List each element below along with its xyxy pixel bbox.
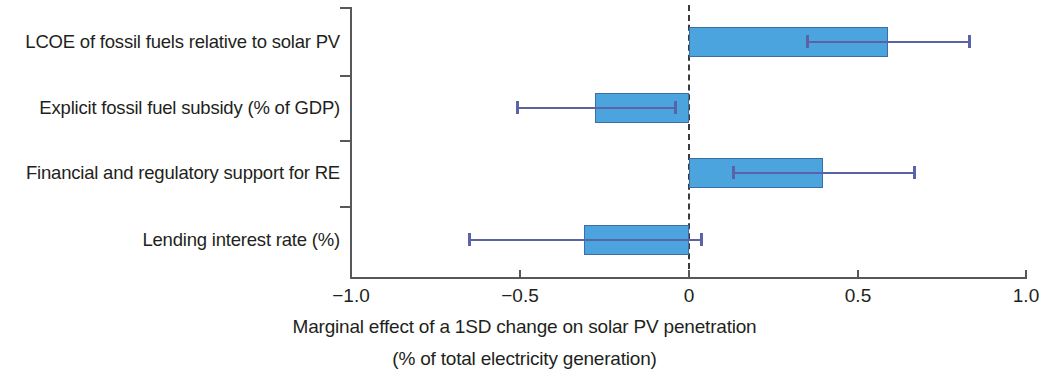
x-tick-label-0-5: 0.5 bbox=[845, 285, 871, 307]
y-axis-tick-3 bbox=[340, 206, 351, 208]
error-bar-cap-high-lending bbox=[700, 233, 703, 246]
x-tick-label-neg0-5: −0.5 bbox=[501, 285, 539, 307]
category-label-subsidy: Explicit fossil fuel subsidy (% of GDP) bbox=[0, 99, 340, 118]
error-bar-cap-low-subsidy bbox=[516, 101, 519, 114]
category-label-lcoe: LCOE of fossil fuels relative to solar P… bbox=[0, 33, 340, 52]
error-bar-cap-low-support bbox=[732, 166, 735, 179]
x-axis-tick-neg1 bbox=[350, 270, 352, 279]
error-bar-cap-high-lcoe bbox=[968, 35, 971, 48]
error-bar-line-subsidy bbox=[517, 107, 676, 110]
error-bar-cap-low-lending bbox=[468, 233, 471, 246]
y-axis-line bbox=[350, 7, 352, 278]
x-axis-title-line-1: Marginal effect of a 1SD change on solar… bbox=[0, 316, 1049, 338]
error-bar-line-lcoe bbox=[807, 41, 970, 44]
x-axis-tick-0 bbox=[688, 270, 690, 279]
horizontal-bar-chart-figure: LCOE of fossil fuels relative to solar P… bbox=[0, 0, 1049, 380]
category-label-support: Financial and regulatory support for RE bbox=[0, 164, 340, 183]
x-axis-tick-0-5 bbox=[857, 270, 859, 279]
error-bar-cap-low-lcoe bbox=[806, 35, 809, 48]
y-axis-tick-2 bbox=[340, 140, 351, 142]
x-tick-label-0: 0 bbox=[684, 285, 695, 307]
x-axis-tick-1 bbox=[1025, 270, 1027, 279]
y-axis-tick-1 bbox=[340, 75, 351, 77]
y-axis-tick-top bbox=[340, 7, 351, 9]
error-bar-cap-high-subsidy bbox=[674, 101, 677, 114]
x-tick-label-neg1: −1.0 bbox=[332, 285, 370, 307]
category-label-lending: Lending interest rate (%) bbox=[0, 231, 340, 250]
error-bar-cap-high-support bbox=[913, 166, 916, 179]
x-tick-label-1: 1.0 bbox=[1013, 285, 1039, 307]
error-bar-line-lending bbox=[469, 239, 702, 242]
x-axis-tick-neg0-5 bbox=[519, 270, 521, 279]
error-bar-line-support bbox=[733, 172, 915, 175]
x-axis-title-line-2: (% of total electricity generation) bbox=[0, 348, 1049, 370]
